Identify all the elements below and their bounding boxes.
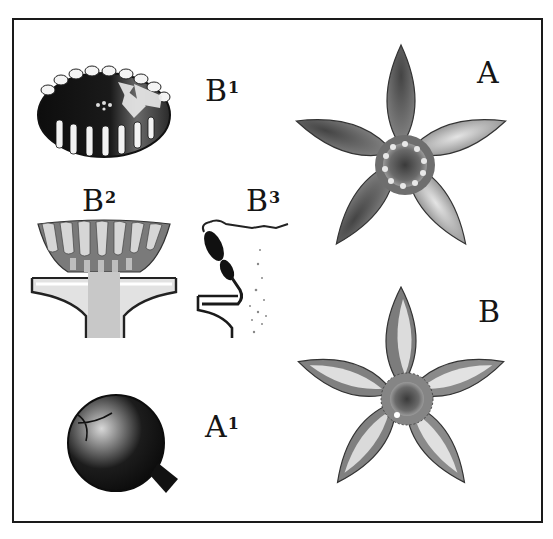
label-b3: B3: [246, 186, 280, 216]
label-a1: A1: [205, 412, 239, 442]
figure-b3-pollinium-section: [192, 220, 292, 340]
figure-b1-corona-top-view: [34, 60, 174, 165]
figure-a1-fruit: [66, 393, 186, 503]
illustration-plate: B1 B2 B3: [0, 0, 553, 539]
label-a: A: [477, 58, 500, 88]
label-b2: B2: [82, 186, 116, 216]
label-b: B: [478, 297, 501, 327]
figure-b2-corona-section: [30, 220, 178, 340]
label-b1: B1: [205, 76, 239, 106]
